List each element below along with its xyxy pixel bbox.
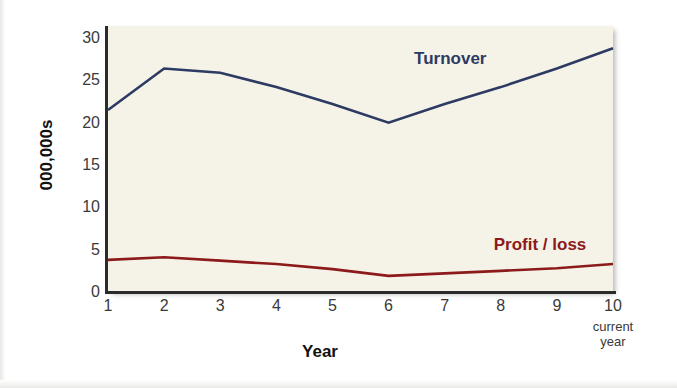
x-tick-label: 6	[369, 298, 409, 314]
x-tick-label: 4	[256, 298, 296, 314]
series-label-turnover: Turnover	[414, 49, 486, 69]
x-tick-sublabel-current-year: currentyear	[578, 320, 648, 350]
y-axis-title: 000,000s	[37, 85, 57, 225]
x-tick-label: 5	[312, 298, 352, 314]
x-axis-title: Year	[260, 342, 380, 362]
x-tick-label: 9	[537, 298, 577, 314]
x-tick-label: 3	[200, 298, 240, 314]
x-axis-tick-labels: 12345678910currentyear	[0, 0, 677, 388]
x-tick-label: 10	[593, 298, 633, 314]
chart-figure: 051015202530 12345678910currentyear Turn…	[0, 0, 677, 388]
x-tick-label: 7	[425, 298, 465, 314]
x-tick-label: 2	[144, 298, 184, 314]
x-tick-label: 8	[481, 298, 521, 314]
series-label-profit-loss: Profit / loss	[494, 235, 587, 255]
x-tick-label: 1	[88, 298, 128, 314]
